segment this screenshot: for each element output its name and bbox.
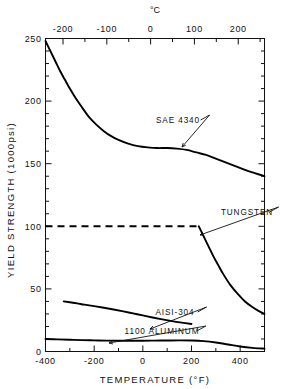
series-label-aisi-304: AISI-304 xyxy=(155,308,194,317)
tick-label: 150 xyxy=(25,159,42,169)
y-axis-title: YIELD STRENGTH (1000psi) xyxy=(5,122,16,278)
tick-label: 250 xyxy=(25,34,42,44)
x-axis-title: TEMPERATURE (°F) xyxy=(100,374,210,385)
series-label-1100-aluminum: 1100 ALUMINUM xyxy=(125,327,200,336)
tick-label: -200 xyxy=(53,24,73,34)
tick-label: 100 xyxy=(186,24,203,34)
tick-label: -100 xyxy=(97,24,117,34)
tick-label: -200 xyxy=(84,356,104,366)
series-label-tungsten: TUNGSTEN xyxy=(221,208,273,217)
tick-label: 200 xyxy=(230,24,247,34)
tick-label: 100 xyxy=(25,222,42,232)
yield-strength-vs-temperature-chart: -400-2000200400050100150200250-200-10001… xyxy=(0,0,282,389)
tick-label: -400 xyxy=(35,356,55,366)
chart-figure: -400-2000200400050100150200250-200-10001… xyxy=(0,0,282,389)
tick-label: 200 xyxy=(183,356,200,366)
tick-label: 0 xyxy=(148,24,154,34)
tick-label: 400 xyxy=(232,356,249,366)
secondary-x-axis-title: °C xyxy=(150,5,161,15)
tick-label: 50 xyxy=(30,284,41,294)
tick-label: 0 xyxy=(36,347,42,357)
tick-label: 0 xyxy=(140,356,146,366)
tick-label: 200 xyxy=(25,96,42,106)
series-label-sae-4340: SAE 4340 xyxy=(156,116,200,125)
